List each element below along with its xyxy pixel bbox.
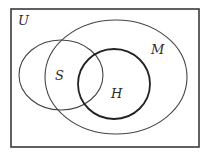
set-h-label: H — [110, 86, 123, 101]
set-m-ellipse — [45, 20, 187, 134]
set-h-ellipse — [78, 49, 150, 119]
set-m-label: M — [150, 42, 165, 57]
universe-rectangle — [11, 9, 199, 147]
set-s-label: S — [55, 68, 64, 83]
universe-label: U — [18, 13, 30, 28]
venn-diagram: U S H M — [0, 0, 205, 154]
